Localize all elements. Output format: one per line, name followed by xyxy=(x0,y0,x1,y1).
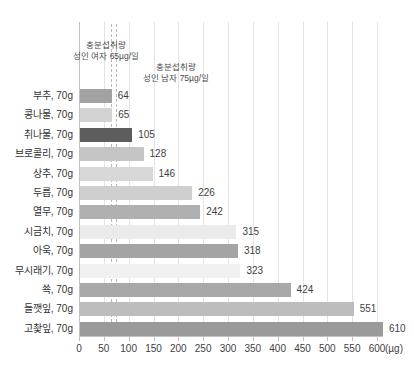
annotation-title: 충분섭취량 xyxy=(51,40,161,51)
category-label-7: 시금치, 70g xyxy=(0,225,73,239)
value-label-10: 424 xyxy=(297,283,314,297)
x-axis-line xyxy=(79,336,383,337)
annotation-detail: 성인 남자 75µg/일 xyxy=(121,73,231,84)
bar-3 xyxy=(80,147,144,161)
tick-350 xyxy=(253,337,254,341)
category-label-8: 아욱, 70g xyxy=(0,244,73,258)
bar-2 xyxy=(80,128,132,142)
value-label-5: 226 xyxy=(198,186,215,200)
value-label-6: 242 xyxy=(206,205,223,219)
gridline-550 xyxy=(352,22,353,337)
category-label-12: 고촻잎, 70g xyxy=(0,322,73,336)
tick-200 xyxy=(178,337,179,341)
value-label-2: 105 xyxy=(138,128,155,142)
annotation-title: 충분섭취량 xyxy=(121,62,231,73)
folate-bar-chart: 6465105128146226242315318323424551610 부추… xyxy=(0,0,414,370)
value-label-4: 146 xyxy=(159,167,176,181)
bar-8 xyxy=(80,244,238,258)
bar-1 xyxy=(80,108,112,122)
value-label-0: 64 xyxy=(118,89,129,103)
category-label-4: 상추, 70g xyxy=(0,167,73,181)
bar-12 xyxy=(80,322,383,336)
category-label-0: 부추, 70g xyxy=(0,89,73,103)
gridline-600 xyxy=(377,22,378,337)
gridline-500 xyxy=(327,22,328,337)
tick-150 xyxy=(154,337,155,341)
tick-300 xyxy=(228,337,229,341)
tick-450 xyxy=(303,337,304,341)
category-label-3: 브로콜리, 70g xyxy=(0,147,73,161)
bar-0 xyxy=(80,89,112,103)
category-label-9: 무시래기, 70g xyxy=(0,264,73,278)
tick-600 xyxy=(377,337,378,341)
tick-550 xyxy=(352,337,353,341)
annotation-adequate-intake-65: 충분섭취량성인 여자 65µg/일 xyxy=(51,40,161,61)
bar-6 xyxy=(80,205,200,219)
value-label-11: 551 xyxy=(360,302,377,316)
annotation-detail: 성인 여자 65µg/일 xyxy=(51,51,161,62)
tick-100 xyxy=(129,337,130,341)
tick-400 xyxy=(278,337,279,341)
value-label-12: 610 xyxy=(389,322,406,336)
category-label-11: 들깻잎, 70g xyxy=(0,302,73,316)
category-label-2: 취나물, 70g xyxy=(0,128,73,142)
bar-10 xyxy=(80,283,291,297)
category-label-1: 콩나물, 70g xyxy=(0,108,73,122)
x-axis-unit-label: (µg) xyxy=(385,343,403,354)
tick-0 xyxy=(79,337,80,341)
value-label-9: 323 xyxy=(246,264,263,278)
category-label-10: 쑉, 70g xyxy=(0,283,73,297)
category-label-5: 두릅, 70g xyxy=(0,186,73,200)
bar-9 xyxy=(80,264,240,278)
bar-7 xyxy=(80,225,236,239)
bar-4 xyxy=(80,167,153,181)
bar-11 xyxy=(80,302,354,316)
tick-500 xyxy=(327,337,328,341)
tick-250 xyxy=(203,337,204,341)
value-label-1: 65 xyxy=(118,108,129,122)
bar-5 xyxy=(80,186,192,200)
category-label-6: 열무, 70g xyxy=(0,205,73,219)
tick-50 xyxy=(104,337,105,341)
value-label-7: 315 xyxy=(242,225,259,239)
value-label-3: 128 xyxy=(150,147,167,161)
annotation-adequate-intake-75: 충분섭취량성인 남자 75µg/일 xyxy=(121,62,231,83)
value-label-8: 318 xyxy=(244,244,261,258)
